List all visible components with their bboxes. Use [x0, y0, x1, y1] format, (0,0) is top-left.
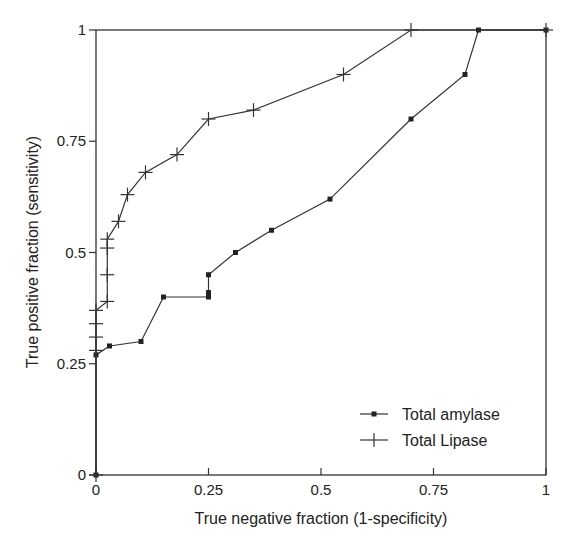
x-tick-label: 1 [542, 481, 550, 498]
roc-chart: 00.250.50.751 00.250.50.751 True negativ… [0, 0, 576, 558]
y-tick-label: 0.75 [57, 132, 86, 149]
legend: Total amylase Total Lipase [360, 406, 500, 449]
legend-amylase: Total amylase [402, 406, 500, 423]
square-marker-icon [372, 412, 377, 417]
x-axis-label: True negative fraction (1-specificity) [195, 510, 448, 527]
y-tick-label: 0.5 [65, 244, 86, 261]
x-tick-labels: 00.250.50.751 [92, 481, 550, 498]
legend-lipase: Total Lipase [402, 432, 487, 449]
y-tick-label: 1 [78, 21, 86, 38]
y-axis-label: True positive fraction (sensitivity) [24, 136, 41, 368]
y-tick-labels: 00.250.50.751 [57, 21, 86, 483]
x-tick-label: 0.75 [419, 481, 448, 498]
x-tick-label: 0.25 [194, 481, 223, 498]
y-tick-label: 0.25 [57, 355, 86, 372]
y-tick-label: 0 [78, 466, 86, 483]
x-tick-label: 0 [92, 481, 100, 498]
x-tick-label: 0.5 [311, 481, 332, 498]
